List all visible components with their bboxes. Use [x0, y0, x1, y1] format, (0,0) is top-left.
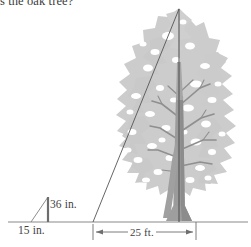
stick-triangle — [31, 197, 48, 222]
dim-right-arrowhead — [186, 230, 193, 235]
scene-illustration — [0, 0, 251, 247]
tree-distance-label: 25 ft. — [128, 226, 156, 238]
dim-left-arrowhead — [96, 230, 103, 235]
stick-height-label: 36 in. — [50, 198, 77, 210]
stick-distance-label: 15 in. — [18, 224, 45, 236]
stick-sight-line — [31, 197, 48, 222]
tree-height-figure: s the oak tree? — [0, 0, 251, 247]
